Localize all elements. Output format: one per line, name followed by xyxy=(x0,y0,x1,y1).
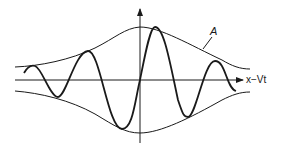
wave-curve xyxy=(24,27,236,129)
envelope-label: A xyxy=(210,25,217,37)
x-axis-label: x−Vt xyxy=(246,74,266,85)
envelope-leader-line xyxy=(203,37,212,49)
